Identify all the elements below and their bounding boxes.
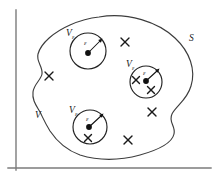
outer-cross-group	[45, 38, 156, 144]
epsilon-label-middle: ε	[143, 69, 146, 76]
epsilon-label-top: ε	[84, 39, 87, 46]
inner-cross-left	[133, 77, 140, 84]
surface-label-s: S	[189, 33, 194, 43]
cross-left-middle	[45, 72, 53, 80]
top-left-excluded-volume	[70, 33, 106, 69]
middle-right-excluded-volume	[130, 66, 162, 98]
figure-container: S V V ε V ε V ε ε ε ε	[0, 0, 221, 179]
enclosing-surface-group	[33, 16, 193, 159]
epsilon-radius-arrow	[89, 116, 102, 128]
cross-bottom-middle	[124, 136, 132, 144]
inner-cross-bottom	[85, 135, 92, 142]
epsilon-radius-arrow	[146, 71, 158, 82]
cross-top-middle	[121, 38, 129, 46]
bottom-left-excluded-volume	[73, 110, 107, 144]
epsilon-radius-arrow	[88, 41, 101, 54]
electromagnetics-diagram: S V V ε V ε V ε ε ε ε	[0, 0, 221, 179]
label-group: S V V ε V ε V ε ε ε ε	[35, 28, 194, 122]
inner-cross-bottom	[148, 87, 155, 94]
cross-right-lower	[148, 108, 156, 116]
axes-group	[8, 10, 211, 170]
surface-s-outline	[33, 16, 193, 159]
epsilon-label-bottom: ε	[86, 115, 89, 122]
